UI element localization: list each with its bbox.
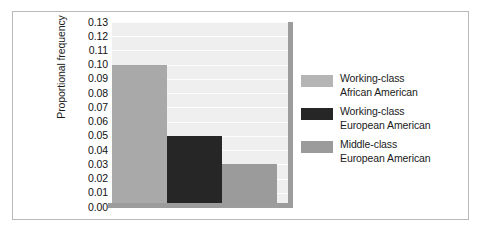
x-axis-line: [108, 203, 293, 208]
legend-item: Working-classEuropean American: [301, 107, 461, 135]
legend-item: Middle-classEuropean American: [301, 140, 461, 168]
legend-swatch: [301, 108, 333, 120]
y-tick-label: 0.02: [70, 173, 108, 184]
y-tick-label: 0.08: [70, 88, 108, 99]
bar: [222, 164, 277, 207]
legend-label: Working-classAfrican American: [340, 72, 418, 99]
legend-swatch: [301, 141, 333, 153]
legend-label: Middle-classEuropean American: [340, 138, 431, 165]
y-tick-label: 0.06: [70, 116, 108, 127]
y-axis-title: Proportional frequency: [55, 2, 69, 132]
legend-label-line2: African American: [340, 86, 418, 100]
y-tick-label: 0.09: [70, 73, 108, 84]
legend-label: Working-classEuropean American: [340, 105, 431, 132]
bar: [112, 65, 167, 207]
legend-label-line2: European American: [340, 152, 431, 166]
legend-item: Working-classAfrican American: [301, 74, 461, 102]
y-tick-label: 0.05: [70, 130, 108, 141]
y-tick-label: 0.10: [70, 59, 108, 70]
y-tick-label: 0.11: [70, 45, 108, 56]
y-tick-label: 0.12: [70, 31, 108, 42]
y-tick-label: 0.07: [70, 102, 108, 113]
y-axis-tick-labels: 0.130.120.110.100.090.080.070.060.050.04…: [70, 17, 108, 207]
bar-chart: Proportional frequency 0.130.120.110.100…: [0, 0, 493, 243]
chart-legend: Working-classAfrican AmericanWorking-cla…: [301, 74, 461, 173]
bar: [167, 136, 222, 207]
legend-label-line1: Working-class: [340, 105, 431, 119]
bars-group: [112, 22, 289, 207]
y-tick-label: 0.13: [70, 17, 108, 28]
y-tick-label: 0.00: [70, 202, 108, 213]
legend-swatch: [301, 75, 333, 87]
y-tick-label: 0.01: [70, 187, 108, 198]
plot-panel: [112, 22, 289, 207]
legend-label-line1: Middle-class: [340, 138, 431, 152]
y-tick-label: 0.03: [70, 159, 108, 170]
legend-label-line2: European American: [340, 119, 431, 133]
y-tick-label: 0.04: [70, 145, 108, 156]
plot-right-border: [288, 22, 293, 208]
legend-label-line1: Working-class: [340, 72, 418, 86]
